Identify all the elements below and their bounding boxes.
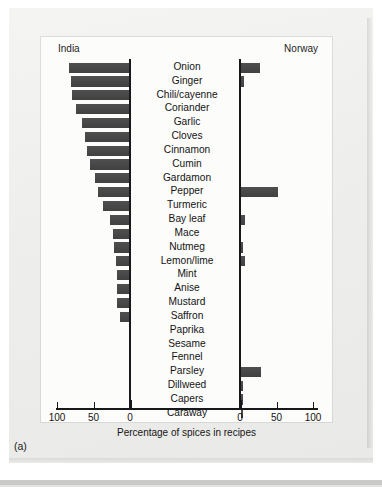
bar-india (76, 104, 129, 114)
bar-norway (241, 76, 244, 86)
bar-row: Bay leaf (41, 213, 332, 227)
bar-india (69, 63, 129, 73)
row-label: Sesame (137, 337, 237, 351)
axis-tick-label: 100 (49, 412, 66, 423)
row-label: Parsley (137, 364, 237, 378)
row-label: Gardamon (137, 171, 237, 185)
bar-norway (241, 63, 260, 73)
right-panel-title: Norway (284, 42, 318, 55)
axis-tick-label: 0 (237, 412, 243, 423)
bar-row: Turmeric (41, 199, 332, 213)
axis-tick (277, 402, 278, 409)
bar-row: Mint (41, 268, 332, 282)
bar-row: Cumin (41, 158, 332, 172)
axis-tick (57, 402, 58, 409)
x-axis-line (56, 408, 318, 410)
bar-row: Onion (41, 61, 332, 75)
bar-norway (241, 367, 261, 377)
bar-norway (241, 187, 278, 197)
row-label: Chili/cayenne (137, 88, 237, 102)
bar-norway (241, 215, 245, 225)
bar-row: Paprika (41, 324, 332, 338)
bar-row: Nutmeg (41, 241, 332, 255)
bar-row: Garlic (41, 116, 332, 130)
page-bottom-edge (9, 458, 373, 463)
bar-row: Anise (41, 282, 332, 296)
x-axis-title: Percentage of spices in recipes (41, 427, 332, 438)
bar-india (110, 215, 129, 225)
bar-india (117, 270, 129, 280)
row-label: Mustard (137, 295, 237, 309)
bar-row: Ginger (41, 75, 332, 89)
bar-row: Lemon/lime (41, 255, 332, 269)
chart-panel: India Norway OnionGingerChili/cayenneCor… (41, 37, 332, 422)
bar-india (103, 201, 129, 211)
bar-india (117, 298, 129, 308)
axis-tick-label: 50 (271, 412, 282, 423)
row-label: Garlic (137, 115, 237, 129)
bar-india (71, 76, 129, 86)
row-label: Turmeric (137, 198, 237, 212)
bar-row: Cloves (41, 130, 332, 144)
bar-row: Coriander (41, 102, 332, 116)
bar-india (120, 312, 129, 322)
bar-india (72, 90, 129, 100)
bar-row: Cinnamon (41, 144, 332, 158)
bar-row: Fennel (41, 351, 332, 365)
bar-row: Chili/cayenne (41, 89, 332, 103)
bar-india (90, 159, 129, 169)
bar-norway (241, 381, 243, 391)
row-label: Cumin (137, 157, 237, 171)
axis-tick (130, 400, 132, 409)
row-label: Mace (137, 226, 237, 240)
butterfly-bar-chart: India Norway OnionGingerChili/cayenneCor… (41, 37, 332, 422)
row-label: Anise (137, 281, 237, 295)
bar-norway (241, 256, 245, 266)
axis-tick-label: 100 (305, 412, 322, 423)
row-label: Bay leaf (137, 212, 237, 226)
row-label: Dillweed (137, 378, 237, 392)
bar-india (113, 229, 129, 239)
bar-row: Saffron (41, 310, 332, 324)
bar-india (95, 173, 129, 183)
row-label: Cloves (137, 129, 237, 143)
row-label: Pepper (137, 184, 237, 198)
bar-india (114, 242, 129, 252)
bar-row: Mace (41, 227, 332, 241)
row-label: Ginger (137, 74, 237, 88)
bar-india (116, 256, 129, 266)
bar-india (98, 187, 129, 197)
bar-row: Parsley (41, 365, 332, 379)
left-panel-title: India (58, 42, 80, 55)
axis-tick (240, 400, 242, 409)
row-label: Fennel (137, 350, 237, 364)
axis-tick (313, 402, 314, 409)
axis-tick-label: 0 (127, 412, 133, 423)
page-shadow (367, 18, 373, 448)
row-label: Onion (137, 60, 237, 74)
bar-india (117, 284, 129, 294)
scanned-page: India Norway OnionGingerChili/cayenneCor… (0, 0, 382, 487)
axis-tick (94, 402, 95, 409)
row-label: Coriander (137, 101, 237, 115)
bar-rows: OnionGingerChili/cayenneCorianderGarlicC… (41, 61, 332, 407)
row-label: Cinnamon (137, 143, 237, 157)
bar-row: Mustard (41, 296, 332, 310)
bar-row: Dillweed (41, 379, 332, 393)
bar-row: Pepper (41, 185, 332, 199)
bar-row: Gardamon (41, 172, 332, 186)
bar-india (87, 146, 129, 156)
row-label: Lemon/lime (137, 254, 237, 268)
row-label: Mint (137, 267, 237, 281)
row-label: Paprika (137, 323, 237, 337)
bar-row: Capers (41, 393, 332, 407)
row-label: Nutmeg (137, 240, 237, 254)
bar-norway (241, 242, 243, 252)
bar-india (85, 132, 129, 142)
bar-row: Sesame (41, 338, 332, 352)
row-label: Saffron (137, 309, 237, 323)
axis-tick-label: 50 (88, 412, 99, 423)
row-label: Capers (137, 392, 237, 406)
figure-caption: (a) (14, 440, 27, 452)
bar-india (82, 118, 129, 128)
